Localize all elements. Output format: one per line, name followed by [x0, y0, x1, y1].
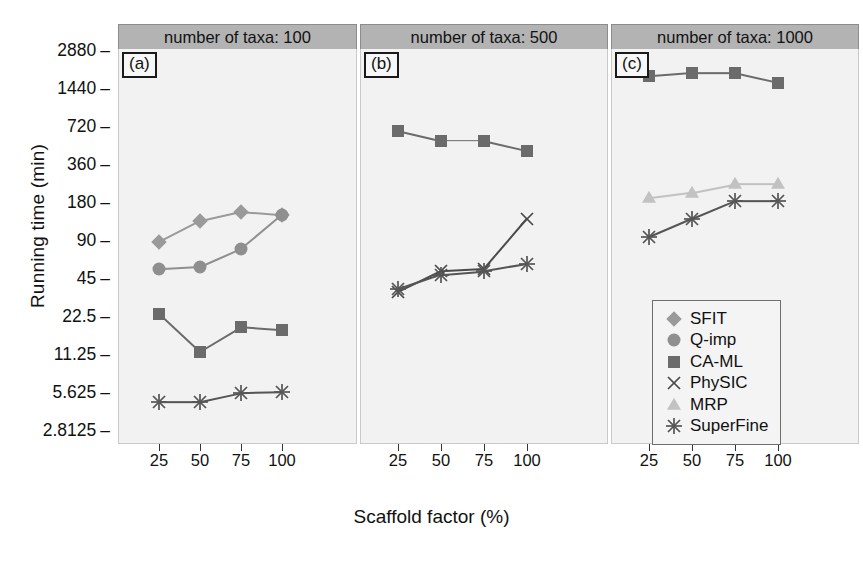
y-tick-label: 45– — [0, 268, 110, 289]
legend-item[interactable]: SFIT — [661, 308, 768, 330]
x-tick-label: 50 — [432, 451, 450, 470]
data-point-marker — [518, 255, 536, 273]
legend-label: CA-ML — [690, 352, 743, 372]
x-tick-label: 100 — [268, 451, 296, 470]
panel-header: number of taxa: 500 — [360, 24, 608, 51]
legend-item[interactable]: SuperFine — [661, 416, 768, 438]
x-tick-label: 100 — [764, 451, 792, 470]
data-point-marker — [232, 384, 250, 402]
panel-tag: (a) — [122, 52, 157, 78]
legend-label: SuperFine — [690, 416, 768, 436]
x-tick-mark — [241, 444, 242, 451]
x-tick-mark — [200, 444, 201, 451]
x-tick-label: 75 — [726, 451, 744, 470]
legend: SFITQ-impCA-MLPhySICMRPSuperFine — [652, 300, 781, 445]
x-tick-mark — [778, 444, 779, 451]
x-tick-mark — [441, 444, 442, 451]
data-point-marker — [478, 135, 490, 147]
y-tick-label: 1440– — [0, 78, 110, 99]
x-tick-label: 25 — [150, 451, 168, 470]
y-tick-label: 2880– — [0, 40, 110, 61]
data-point-marker — [642, 191, 656, 203]
legend-marker-circle-icon — [661, 330, 687, 350]
legend-item[interactable]: CA-ML — [661, 351, 768, 373]
chart-panel: number of taxa: 500(b) — [360, 24, 608, 444]
legend-marker-asterisk-icon — [661, 416, 687, 436]
data-point-marker — [194, 261, 207, 274]
legend-item[interactable]: PhySIC — [661, 373, 768, 395]
chart-panel: number of taxa: 100(a) — [118, 24, 357, 444]
data-point-marker — [192, 213, 208, 229]
x-tick-label: 25 — [640, 451, 658, 470]
data-point-marker — [392, 125, 404, 137]
x-tick-mark — [527, 444, 528, 451]
data-point-marker — [153, 308, 165, 320]
data-point-marker — [521, 145, 533, 157]
data-point-marker — [683, 210, 701, 228]
legend-item[interactable]: Q-imp — [661, 330, 768, 352]
x-tick-mark — [692, 444, 693, 451]
data-point-marker — [235, 242, 248, 255]
data-point-marker — [153, 263, 166, 276]
data-point-marker — [771, 177, 785, 189]
x-tick-label: 75 — [232, 451, 250, 470]
panel-plot-area: (b) — [360, 49, 608, 444]
y-tick-label: 5.625– — [0, 382, 110, 403]
y-tick-label: 720– — [0, 116, 110, 137]
legend-label: MRP — [690, 395, 728, 415]
y-tick-label: 11.25– — [0, 344, 110, 365]
x-tick-label: 75 — [475, 451, 493, 470]
x-tick-label: 50 — [191, 451, 209, 470]
data-point-marker — [432, 266, 450, 284]
legend-marker-triangle-icon — [661, 395, 687, 415]
data-point-marker — [685, 185, 699, 197]
data-point-marker — [276, 208, 289, 221]
panel-header: number of taxa: 100 — [118, 24, 357, 51]
legend-marker-square-icon — [661, 352, 687, 372]
legend-marker-cross-icon — [661, 373, 687, 393]
data-point-marker — [389, 280, 407, 298]
data-point-marker — [475, 262, 493, 280]
data-point-marker — [769, 192, 787, 210]
data-point-marker — [235, 321, 247, 333]
data-point-marker — [729, 67, 741, 79]
data-point-marker — [276, 324, 288, 336]
panel-plot-area: (a) — [118, 49, 357, 444]
panel-tag: (c) — [615, 52, 649, 78]
x-tick-mark — [649, 444, 650, 451]
panel-tag: (b) — [364, 52, 399, 78]
x-tick-mark — [282, 444, 283, 451]
x-tick-label: 50 — [683, 451, 701, 470]
data-point-marker — [233, 204, 249, 220]
y-tick-label: 360– — [0, 154, 110, 175]
data-point-marker — [686, 67, 698, 79]
data-point-marker — [273, 383, 291, 401]
data-point-marker — [150, 393, 168, 411]
x-tick-label: 100 — [513, 451, 541, 470]
y-tick-label: 90– — [0, 230, 110, 251]
legend-item[interactable]: MRP — [661, 394, 768, 416]
legend-label: SFIT — [690, 309, 727, 329]
x-tick-label: 25 — [389, 451, 407, 470]
x-tick-mark — [398, 444, 399, 451]
legend-label: Q-imp — [690, 330, 736, 350]
data-point-marker — [191, 393, 209, 411]
data-point-marker — [518, 210, 536, 228]
legend-label: PhySIC — [690, 373, 748, 393]
data-point-marker — [726, 192, 744, 210]
data-point-marker — [772, 77, 784, 89]
x-tick-mark — [159, 444, 160, 451]
y-tick-label: 2.8125– — [0, 420, 110, 441]
y-tick-label: 180– — [0, 192, 110, 213]
x-tick-mark — [735, 444, 736, 451]
legend-marker-diamond-icon — [661, 309, 687, 329]
data-point-marker — [435, 135, 447, 147]
x-tick-mark — [484, 444, 485, 451]
y-tick-label: 22.5– — [0, 306, 110, 327]
figure-root: Running time (min) 2880–1440–720–360–180… — [0, 0, 863, 566]
data-point-marker — [194, 346, 206, 358]
data-point-marker — [640, 228, 658, 246]
data-point-marker — [728, 177, 742, 189]
x-axis-label: Scaffold factor (%) — [0, 506, 863, 528]
panel-header: number of taxa: 1000 — [611, 24, 859, 51]
